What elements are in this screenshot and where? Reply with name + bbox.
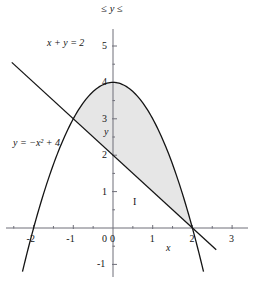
x-axis-label: x: [166, 243, 170, 253]
parabola-equation-label: y = −x² + 4: [13, 138, 60, 148]
x-tick-label: 3: [229, 234, 234, 244]
y-tick-label: 4: [102, 77, 107, 87]
region-label-I: I: [133, 197, 136, 207]
x-tick-label: -1: [66, 234, 74, 244]
x-tick-label: 1: [150, 234, 155, 244]
y-axis-label: y: [104, 127, 108, 137]
y-tick-label: -1: [97, 259, 105, 269]
origin-label: 0: [102, 234, 107, 244]
x-tick-label: -2: [27, 234, 35, 244]
y-tick-label: 1: [102, 187, 107, 197]
y-tick-label: 5: [102, 41, 107, 51]
x-tick-label: 2: [189, 234, 194, 244]
graph-figure: ≤ y ≤ x + y = 2 y = −x² + 4 x y I -3-2-1…: [0, 0, 254, 283]
y-tick-label: 3: [102, 114, 107, 124]
line-equation-label: x + y = 2: [47, 38, 84, 48]
top-inequality-label: ≤ y ≤: [101, 4, 122, 15]
x-tick-label: 0: [110, 234, 115, 244]
y-tick-label: 2: [102, 150, 107, 160]
